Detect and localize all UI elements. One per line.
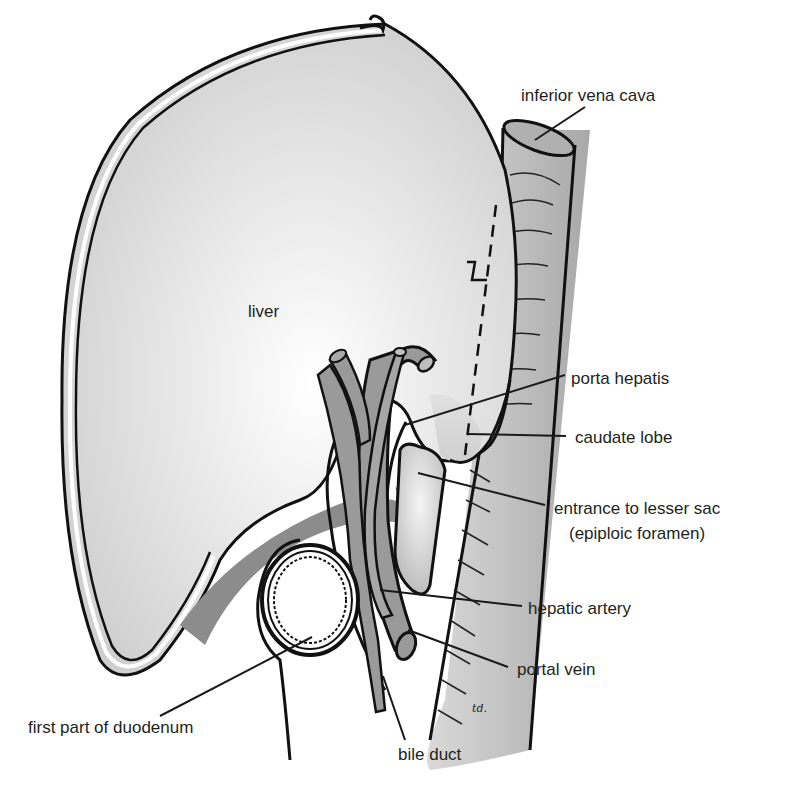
label-inferior-vena-cava: inferior vena cava [521, 86, 656, 105]
epiploic-foramen [395, 444, 445, 594]
liver-porta-hepatis-diagram: liver inferior vena cava porta hepatis c… [0, 0, 785, 785]
label-porta-hepatis: porta hepatis [571, 369, 669, 388]
label-lesser-sac-line2: (epiploic foramen) [569, 524, 705, 543]
leader-duodenum [160, 637, 312, 716]
artist-signature: td. [472, 702, 487, 715]
label-liver: liver [248, 302, 280, 321]
leader-bile-duct [383, 676, 405, 740]
label-hepatic-artery: hepatic artery [528, 599, 631, 618]
label-caudate-lobe: caudate lobe [575, 428, 672, 447]
duodenum [258, 540, 358, 760]
label-portal-vein: portal vein [517, 660, 595, 679]
label-bile-duct: bile duct [398, 745, 462, 764]
label-lesser-sac-line1: entrance to lesser sac [554, 499, 721, 518]
label-first-part-of-duodenum: first part of duodenum [28, 718, 193, 737]
